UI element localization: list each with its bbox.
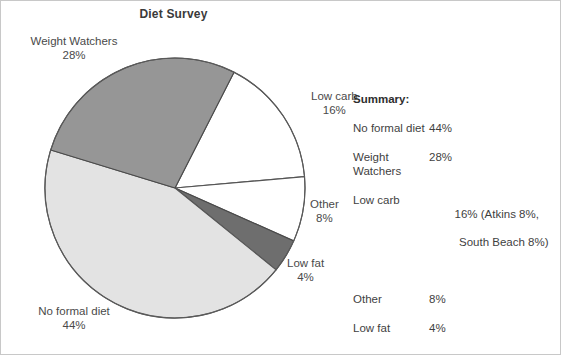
summary-row-value-line1: 16% (Atkins 8%, xyxy=(455,208,539,220)
summary-row-value: 44% xyxy=(429,121,558,135)
pie-label-no-formal-diet-name: No formal diet xyxy=(38,305,110,317)
pie-label-other-name: Other xyxy=(310,198,339,210)
summary-heading: Summary: xyxy=(353,93,558,105)
pie-label-other: Other 8% xyxy=(310,197,339,225)
summary-row: Low carb 16% (Atkins 8%, South Beach 8%) xyxy=(353,193,558,277)
summary-row-name-line2: Watchers xyxy=(353,165,401,177)
summary-row: Low fat 4% xyxy=(353,321,558,335)
pie-label-weight-watchers: Weight Watchers 28% xyxy=(11,34,137,62)
pie-label-low-fat-name: Low fat xyxy=(287,257,324,269)
summary-row: No formal diet 44% xyxy=(353,121,558,135)
pie-label-low-carb-name: Low carb xyxy=(311,90,358,102)
summary-row-value: 4% xyxy=(429,321,558,335)
chart-figure: Diet Survey Weight Watchers 28% Low carb… xyxy=(0,0,561,355)
pie-label-weight-watchers-percent: 28% xyxy=(11,48,137,62)
pie-label-no-formal-diet: No formal diet 44% xyxy=(9,304,139,332)
summary-row-name-line1: Weight xyxy=(353,151,389,163)
pie-label-no-formal-diet-percent: 44% xyxy=(9,318,139,332)
summary-row-value: 28% xyxy=(429,150,558,164)
pie-label-low-carb-percent: 16% xyxy=(311,103,358,117)
summary-row: Other 8% xyxy=(353,292,558,306)
pie-label-low-carb: Low carb 16% xyxy=(311,89,358,117)
pie-label-other-percent: 8% xyxy=(310,211,339,225)
summary-panel: Summary: No formal diet 44% Weight Watch… xyxy=(353,93,558,335)
pie-label-low-fat: Low fat 4% xyxy=(287,256,324,284)
pie-label-low-fat-percent: 4% xyxy=(287,270,324,284)
summary-row-value: 16% (Atkins 8%, South Beach 8%) xyxy=(429,193,558,277)
pie-label-weight-watchers-name: Weight Watchers xyxy=(31,35,118,47)
summary-row-value-line2: South Beach 8%) xyxy=(429,235,558,249)
summary-row-name: No formal diet xyxy=(353,121,429,135)
summary-row-name: Other xyxy=(353,292,429,306)
summary-row-name: Weight Watchers xyxy=(353,150,429,178)
summary-row-name: Low fat xyxy=(353,321,429,335)
summary-row-value: 8% xyxy=(429,292,558,306)
summary-row: Weight Watchers 28% xyxy=(353,150,558,178)
summary-row-name: Low carb xyxy=(353,193,429,207)
